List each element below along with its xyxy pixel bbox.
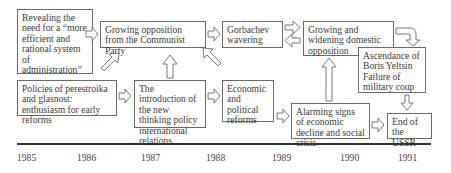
arrow-right-icon (119, 89, 131, 103)
year-label: 1991 (398, 152, 417, 163)
arrows-layer (0, 0, 451, 173)
arrow-down-icon (401, 95, 413, 110)
arrow-curved-down-icon (396, 28, 420, 46)
arrow-right-icon (277, 109, 289, 123)
arrow-up-icon (322, 58, 336, 101)
arrow-left-icon (285, 34, 300, 47)
arrow-right-icon (208, 89, 220, 103)
arrow-right-icon (372, 118, 384, 132)
timeline-axis (17, 143, 431, 145)
arrow-right-icon (285, 21, 300, 34)
year-label: 1988 (206, 152, 225, 163)
arrow-up-icon (163, 55, 177, 78)
arrow-right-icon (86, 27, 98, 41)
year-label: 1989 (272, 152, 291, 163)
arrow-right-icon (208, 27, 220, 41)
year-label: 1986 (77, 152, 96, 163)
arrow-diagonal-up-left-icon (203, 48, 221, 66)
year-label: 1990 (340, 152, 359, 163)
year-label: 1985 (17, 152, 36, 163)
arrow-diagonal-up-right-icon (101, 53, 119, 71)
year-label: 1987 (141, 152, 160, 163)
